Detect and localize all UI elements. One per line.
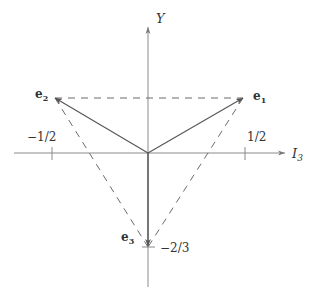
tick-label-y-neg: −2/3 [160, 241, 189, 255]
tick-label-x-pos: 1/2 [247, 130, 266, 144]
label-e3: e3 [121, 230, 135, 246]
vector-e2 [55, 98, 148, 153]
i3-axis-label: I3 [291, 146, 303, 163]
label-e2: e2 [35, 87, 48, 103]
weight-diagram: Y I3 −1/2 1/2 −2/3 e1 e2 e3 [0, 0, 313, 290]
vector-e1 [148, 98, 243, 153]
y-axis-label: Y [156, 11, 166, 26]
dashed-triangle [55, 98, 243, 247]
tick-label-x-neg: −1/2 [27, 130, 56, 144]
label-e1: e1 [253, 89, 266, 105]
